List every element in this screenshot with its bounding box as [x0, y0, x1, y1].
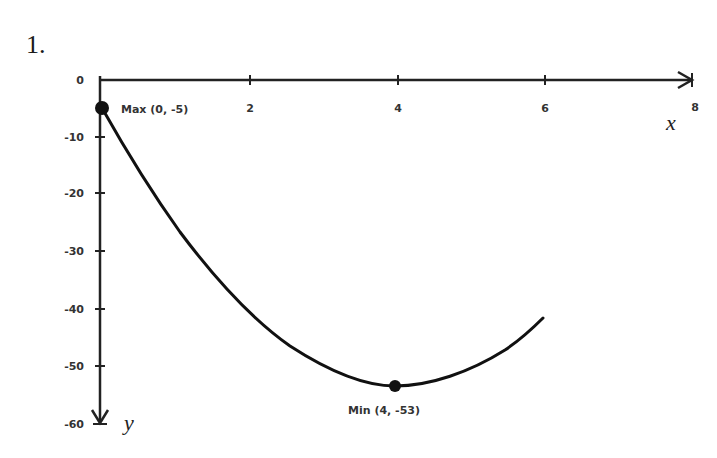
y-tick-neg50: -50 [64, 360, 84, 373]
x-tick-2: 2 [246, 102, 254, 115]
curve [102, 108, 543, 386]
x-axis-label: x [665, 110, 676, 135]
y-tick-neg10: -10 [64, 131, 84, 144]
chart: 2 4 6 8 x 0 -10 -20 -30 -40 -50 -60 y Ma… [0, 0, 717, 458]
y-tick-neg20: -20 [64, 187, 84, 200]
y-tick-neg30: -30 [64, 245, 84, 258]
x-tick-4: 4 [394, 102, 402, 115]
y-tick-0: 0 [76, 74, 84, 87]
x-axis: 2 4 6 8 x [100, 72, 699, 135]
y-axis-label: y [122, 410, 134, 435]
x-tick-6: 6 [541, 102, 549, 115]
y-tick-neg40: -40 [64, 303, 84, 316]
x-tick-8: 8 [691, 101, 699, 114]
y-tick-neg60: -60 [64, 418, 84, 431]
max-annotation: Max (0, -5) [121, 103, 188, 116]
y-axis: 0 -10 -20 -30 -40 -50 -60 y [64, 74, 134, 435]
min-point [389, 380, 401, 392]
max-point [95, 101, 109, 115]
min-annotation: Min (4, -53) [348, 404, 420, 417]
